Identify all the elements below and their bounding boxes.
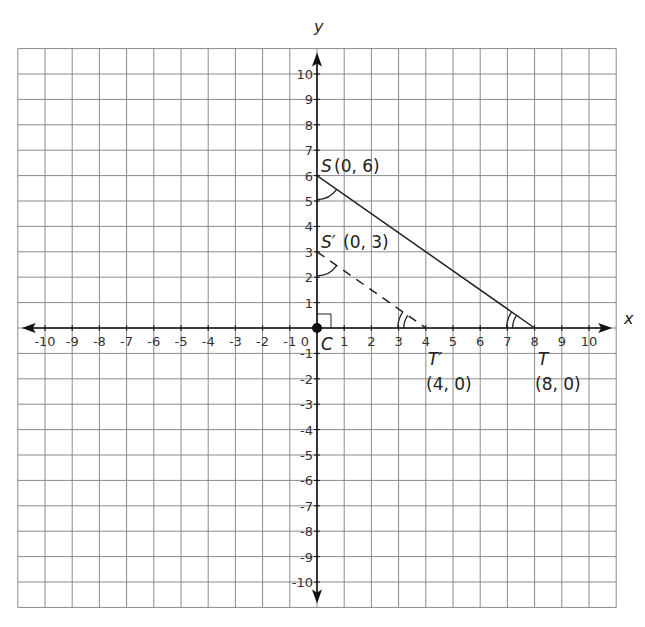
- y-tick-label: -2: [300, 372, 313, 387]
- y-tick-label: 9: [305, 92, 313, 107]
- x-tick-label: 6: [476, 334, 484, 349]
- y-tick-label: -10: [292, 575, 313, 590]
- x-tick-label: -7: [120, 334, 133, 349]
- x-tick-label: -6: [147, 334, 160, 349]
- x-tick-label: -2: [256, 334, 269, 349]
- x-tick-label: -1: [283, 334, 296, 349]
- label-Sp-coords: (0, 3): [343, 232, 389, 252]
- y-tick-label: 4: [305, 219, 313, 234]
- y-tick-label: -9: [300, 550, 313, 565]
- x-tick-label: 7: [503, 334, 511, 349]
- x-tick-label: -10: [34, 334, 55, 349]
- x-tick-label: -8: [93, 334, 106, 349]
- x-tick-label: -3: [229, 334, 242, 349]
- y-tick-label: 10: [296, 67, 313, 82]
- figures: [312, 176, 535, 333]
- y-tick-label: -4: [300, 423, 313, 438]
- angle-arc-S: [317, 189, 337, 199]
- y-tick-label: 6: [305, 169, 313, 184]
- x-tick-label: 5: [449, 334, 457, 349]
- x-tick-label: 10: [581, 334, 598, 349]
- x-tick-label: 1: [340, 334, 348, 349]
- y-axis-label: y: [313, 17, 324, 36]
- label-C: C: [321, 334, 333, 354]
- x-tick-label: 3: [394, 334, 402, 349]
- label-Tp-coords: (4, 0): [426, 374, 472, 394]
- y-tick-label: 7: [305, 143, 313, 158]
- x-tick-label: 2: [367, 334, 375, 349]
- label-Tp: T′: [428, 349, 442, 369]
- point-C: [312, 323, 322, 333]
- y-tick-label: -1: [300, 346, 313, 361]
- label-S: S: [321, 156, 332, 176]
- y-tick-label: 5: [305, 194, 313, 209]
- x-tick-label: 9: [558, 334, 566, 349]
- y-tick-label: 8: [305, 118, 313, 133]
- y-tick-label: -3: [300, 397, 313, 412]
- angle-arc-Tp-inner: [404, 315, 408, 328]
- label-Sp: S′: [321, 232, 336, 252]
- y-tick-label: 3: [305, 245, 313, 260]
- y-tick-label: -7: [300, 499, 313, 514]
- coordinate-plane: -10-9-8-7-6-5-4-3-2-1012345678910-10-9-8…: [0, 0, 645, 627]
- label-T: T: [538, 349, 550, 369]
- x-tick-label: -4: [202, 334, 215, 349]
- x-tick-label: 4: [422, 334, 430, 349]
- y-tick-label: -8: [300, 524, 313, 539]
- x-axis-label: x: [623, 309, 634, 328]
- label-T-coords: (8, 0): [535, 374, 581, 394]
- x-tick-label: -5: [175, 334, 188, 349]
- angle-arc-T-inner: [513, 315, 517, 328]
- label-S-coords: (0, 6): [334, 156, 380, 176]
- x-tick-label: -9: [66, 334, 79, 349]
- y-tick-label: -5: [300, 448, 313, 463]
- angle-arc-Sp: [317, 266, 337, 276]
- x-tick-label: 8: [530, 334, 538, 349]
- y-tick-label: -6: [300, 473, 313, 488]
- y-tick-label: 2: [305, 270, 313, 285]
- y-tick-label: 1: [305, 296, 313, 311]
